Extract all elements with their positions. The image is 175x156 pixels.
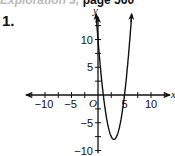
svg-text:10: 10 (81, 34, 93, 46)
parabola-curve (96, 14, 132, 140)
svg-text:5: 5 (87, 61, 93, 73)
svg-text:−5: −5 (64, 98, 77, 110)
svg-text:y: y (92, 4, 98, 16)
svg-text:−5: −5 (80, 117, 93, 129)
graph: −10−5510−10−5510Oyx (0, 0, 175, 155)
axis-labels: −10−5510−10−5510Oyx (35, 4, 175, 155)
svg-text:−10: −10 (74, 145, 93, 156)
svg-text:10: 10 (145, 98, 157, 110)
svg-text:x: x (170, 88, 175, 100)
svg-text:−10: −10 (35, 98, 54, 110)
svg-text:5: 5 (121, 98, 127, 110)
svg-text:O: O (89, 97, 97, 109)
